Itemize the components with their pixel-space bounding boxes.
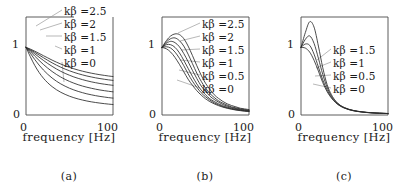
panel-c-curve-label-kbeta-0-5: kβ =0.5	[333, 70, 376, 82]
panel-b-curve-label-kbeta-1-5: kβ =1.5	[202, 44, 245, 56]
panel-c-ytick-0: 0	[288, 108, 295, 121]
panel-b-curve-label-kbeta-1: kβ =1	[202, 57, 234, 69]
panel-c-ytick-1: 1	[287, 38, 294, 51]
panel-c-curve-label-kbeta-0: kβ =0	[333, 83, 365, 95]
panel-b-curve-label-kbeta-0-5: kβ =0.5	[202, 70, 245, 82]
panel-a-xaxis-title: frequency [Hz]	[0, 130, 138, 144]
panel-a-curve-label-kbeta-2: kβ =2	[64, 18, 96, 30]
panel-a-curve-label-kbeta-0: kβ =0	[64, 57, 96, 69]
panel-b-curve-label-kbeta-0: kβ =0	[202, 83, 234, 95]
panel-a-ytick-0: 0	[13, 108, 20, 121]
panel-a-curve-label-kbeta-1: kβ =1	[64, 44, 96, 56]
panel-a-caption: (a)	[0, 170, 138, 183]
panel-c-xaxis-title: frequency [Hz]	[275, 130, 413, 144]
panel-b-curve-label-kbeta-2-5: kβ =2.5	[202, 18, 245, 30]
panel-c-caption: (c)	[275, 170, 413, 183]
panel-a: 1 0 0 100 kβ =2.5 kβ =2 kβ =1.5 kβ =1 kβ…	[0, 0, 138, 187]
panel-a-curve-label-kbeta-1-5: kβ =1.5	[64, 31, 107, 43]
panel-c-curve-label-kbeta-1-5: kβ =1.5	[333, 44, 376, 56]
panel-a-curve-label-kbeta-2-5: kβ =2.5	[64, 5, 107, 17]
panel-c-curve-label-kbeta-1: kβ =1	[333, 57, 365, 69]
panel-b-curve-label-kbeta-2: kβ =2	[202, 31, 234, 43]
panel-b-xaxis-title: frequency [Hz]	[136, 130, 274, 144]
panel-c: 1 0 0 100 kβ =1.5 kβ =1 kβ =0.5 kβ =0 fr…	[275, 0, 413, 187]
figure-three-panel-frequency-response: 1 0 0 100 kβ =2.5 kβ =2 kβ =1.5 kβ =1 kβ…	[0, 0, 413, 187]
panel-a-ytick-1: 1	[12, 38, 19, 51]
panel-b-caption: (b)	[136, 170, 274, 183]
panel-b-ytick-0: 0	[149, 108, 156, 121]
panel-b: 1 0 0 100 kβ =2.5 kβ =2 kβ =1.5 kβ =1 kβ…	[136, 0, 274, 187]
panel-b-ytick-1: 1	[148, 38, 155, 51]
